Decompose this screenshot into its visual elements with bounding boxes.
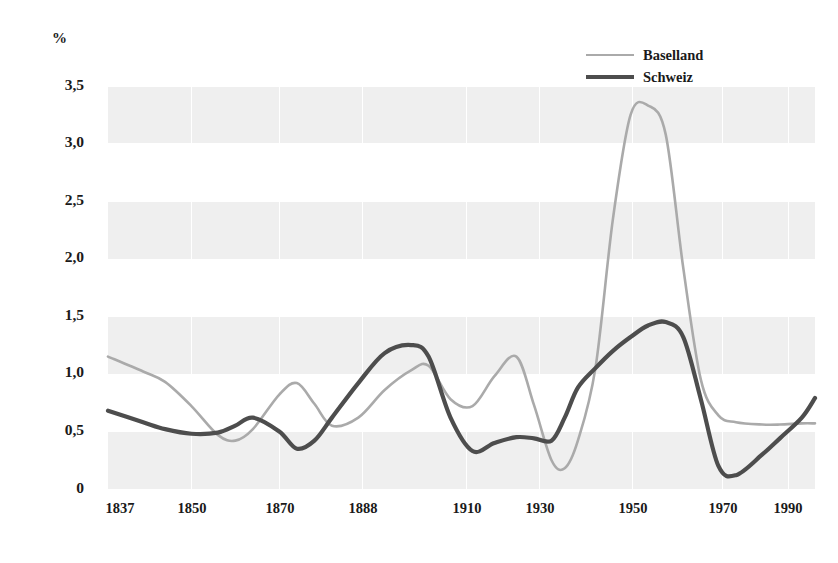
y-axis-tick-3-5: 3,5 [22, 76, 84, 94]
legend-label-baselland: Baselland [643, 47, 703, 63]
legend: Baselland Schweiz [586, 44, 703, 88]
series-line-baselland [108, 102, 815, 470]
x-axis-tick-1950: 1950 [603, 500, 663, 517]
y-axis-tick-0-5: 0,5 [22, 421, 84, 439]
x-axis-tick-1910: 1910 [437, 500, 497, 517]
plot-area [108, 86, 815, 489]
y-axis-unit-label: % [52, 30, 67, 47]
legend-swatch-schweiz [586, 75, 634, 79]
x-axis-tick-1970: 1970 [693, 500, 753, 517]
legend-swatch-baselland [586, 54, 634, 56]
legend-label-schweiz: Schweiz [643, 69, 693, 85]
series-lines [108, 86, 815, 489]
legend-item-baselland: Baselland [586, 44, 703, 66]
x-axis-tick-1870: 1870 [250, 500, 310, 517]
y-axis-tick-3-0: 3,0 [22, 133, 84, 151]
x-axis-tick-1850: 1850 [162, 500, 222, 517]
series-line-schweiz [108, 321, 815, 476]
legend-item-schweiz: Schweiz [586, 66, 703, 88]
y-axis-tick-1-5: 1,5 [22, 306, 84, 324]
population-growth-line-chart: % 3,5 3,0 2,5 2,0 1,5 1,0 0,5 0 1837 185… [0, 0, 838, 563]
x-axis-tick-1837: 1837 [90, 500, 150, 517]
y-axis-tick-0: 0 [22, 479, 84, 497]
y-axis-tick-2-5: 2,5 [22, 191, 84, 209]
y-axis-tick-2-0: 2,0 [22, 248, 84, 266]
y-axis-tick-1-0: 1,0 [22, 363, 84, 381]
x-axis-tick-1990: 1990 [758, 500, 818, 517]
x-axis-tick-1930: 1930 [510, 500, 570, 517]
x-axis-tick-1888: 1888 [333, 500, 393, 517]
